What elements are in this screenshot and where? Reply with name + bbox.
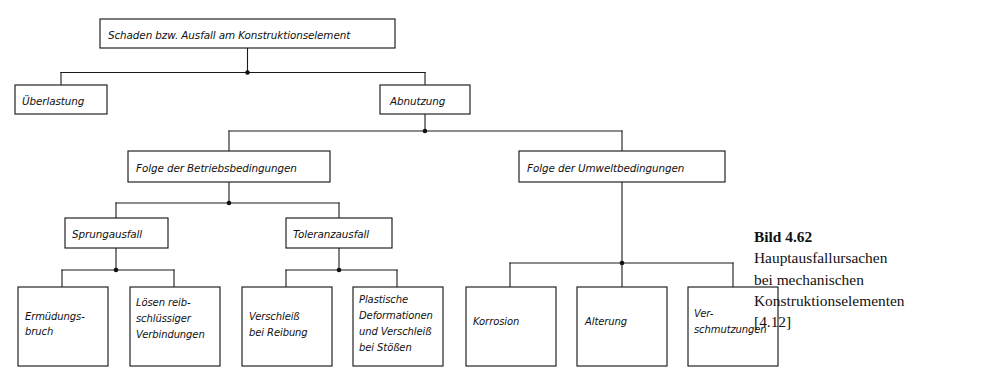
node-loosening-friction[interactable]: Lösen reib- schlüssiger Verbindungen [130, 287, 220, 366]
figure-caption-line-3: [4.12] [754, 311, 1004, 332]
node-environmental-conditions-label: Folge der Umweltbedingungen [527, 162, 684, 174]
figure-caption-line-0: Hauptausfallursachen [754, 247, 1004, 268]
junction-wear [423, 129, 428, 134]
node-ageing-label: Alterung [584, 316, 627, 327]
node-loosening-friction-label-line-0: Lösen reib- [136, 297, 191, 308]
node-operating-conditions-label: Folge der Betriebsbedingungen [136, 162, 297, 174]
node-ageing[interactable]: Alterung [577, 287, 667, 366]
figure-container: Schaden bzw. Ausfall am Konstruktionsele… [0, 0, 1008, 385]
node-corrosion[interactable]: Korrosion [466, 287, 556, 366]
node-plastic-deformation-label-line-3: bei Stößen [359, 342, 412, 353]
junction-environmental [620, 261, 625, 266]
node-sudden-failure-label: Sprungausfall [72, 228, 142, 240]
node-wear-friction-label-line-1: bei Reibung [249, 327, 308, 338]
node-corrosion-label: Korrosion [473, 316, 519, 327]
node-sudden-failure[interactable]: Sprungausfall [65, 218, 168, 248]
node-plastic-deformation-label-line-0: Plastische [359, 294, 408, 305]
node-fatigue-fracture[interactable]: Ermüdungs- bruch [18, 287, 108, 366]
junction-root [245, 70, 250, 75]
node-loosening-friction-label-line-2: Verbindungen [136, 329, 205, 340]
node-wear-friction-label-line-0: Verschleiß [249, 311, 300, 322]
node-overload[interactable]: Überlastung [15, 85, 107, 114]
node-fatigue-fracture-label-line-0: Ermüdungs- [25, 311, 85, 322]
node-environmental-conditions[interactable]: Folge der Umweltbedingungen [519, 151, 725, 182]
node-fatigue-fracture-label-line-1: bruch [25, 326, 53, 337]
node-plastic-deformation-label-line-1: Deformationen [359, 310, 433, 321]
node-wear-friction[interactable]: Verschleiß bei Reibung [242, 287, 332, 366]
node-overload-label: Überlastung [22, 95, 85, 107]
node-tolerance-failure[interactable]: Toleranzausfall [286, 218, 392, 248]
junction-operating [227, 201, 232, 206]
node-wear-label: Abnutzung [389, 95, 446, 107]
node-operating-conditions[interactable]: Folge der Betriebsbedingungen [128, 151, 330, 182]
node-tolerance-failure-label: Toleranzausfall [293, 228, 369, 240]
junction-sudden [114, 268, 119, 273]
figure-caption-title: Bild 4.62 [754, 226, 1004, 247]
junction-tolerance [337, 268, 342, 273]
node-root[interactable]: Schaden bzw. Ausfall am Konstruktionsele… [100, 19, 395, 48]
figure-caption: Bild 4.62 Hauptausfallursachen bei mecha… [754, 226, 1004, 332]
figure-caption-line-2: Konstruktionselementen [754, 290, 1004, 311]
node-plastic-deformation[interactable]: Plastische Deformationen und Verschleiß … [353, 287, 443, 366]
node-plastic-deformation-label-line-2: und Verschleiß [359, 326, 431, 337]
node-soiling-label-line-0: Ver- [694, 308, 714, 319]
figure-caption-line-1: bei mechanischen [754, 269, 1004, 290]
node-root-label: Schaden bzw. Ausfall am Konstruktionsele… [108, 29, 351, 41]
node-loosening-friction-label-line-1: schlüssiger [136, 313, 192, 324]
node-wear[interactable]: Abnutzung [380, 85, 470, 114]
